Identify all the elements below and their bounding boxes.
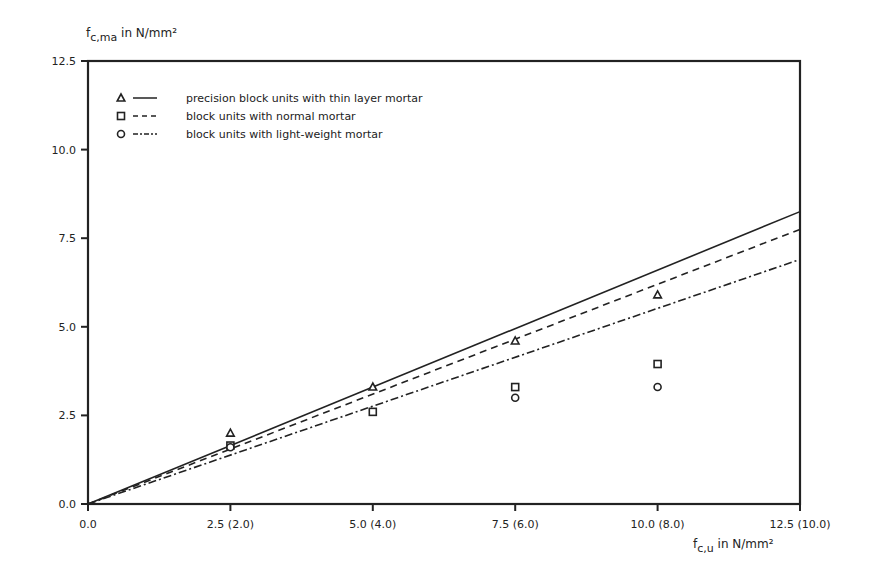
x-tick-label: 2.5 (2.0) (207, 518, 254, 531)
y-axis-label: fc,ma in N/mm² (86, 26, 177, 44)
triangle-marker (654, 291, 662, 298)
legend-label: block units with normal mortar (186, 110, 356, 123)
circle-marker (227, 444, 234, 451)
square-marker (118, 113, 125, 120)
triangle-marker (369, 383, 377, 390)
x-axis-label: fc,u in N/mm² (693, 537, 774, 555)
circle-marker (654, 384, 661, 391)
fit-line-solid (88, 212, 800, 504)
fit-lines (88, 212, 800, 504)
chart: 0.02.55.07.510.012.5 0.02.5 (2.0)5.0 (4.… (0, 0, 870, 585)
x-tick-label: 10.0 (8.0) (631, 518, 685, 531)
circle-marker (118, 131, 125, 138)
y-tick-label: 0.0 (59, 498, 77, 511)
x-axis-ticks: 0.02.5 (2.0)5.0 (4.0)7.5 (6.0)10.0 (8.0)… (79, 504, 830, 531)
legend-label: block units with light-weight mortar (186, 128, 383, 141)
x-tick-label: 7.5 (6.0) (492, 518, 539, 531)
data-points (227, 291, 662, 451)
y-axis-ticks: 0.02.55.07.510.012.5 (52, 55, 89, 511)
y-tick-label: 12.5 (52, 55, 77, 68)
axis-labels: fc,ma in N/mm²fc,u in N/mm² (86, 26, 774, 555)
triangle-marker (227, 429, 235, 436)
y-tick-label: 7.5 (59, 232, 77, 245)
square-marker (512, 384, 519, 391)
circle-marker (512, 394, 519, 401)
square-marker (654, 361, 661, 368)
x-tick-label: 5.0 (4.0) (349, 518, 396, 531)
fit-line-dash-dot (88, 259, 800, 504)
y-tick-label: 5.0 (59, 321, 77, 334)
legend-label: precision block units with thin layer mo… (186, 92, 423, 105)
triangle-marker (117, 94, 125, 101)
legend: precision block units with thin layer mo… (117, 92, 423, 141)
x-tick-label: 12.5 (10.0) (769, 518, 830, 531)
fit-line-dashed (88, 229, 800, 504)
x-tick-label: 0.0 (79, 518, 97, 531)
y-tick-label: 10.0 (52, 144, 77, 157)
y-tick-label: 2.5 (59, 409, 77, 422)
square-marker (369, 408, 376, 415)
